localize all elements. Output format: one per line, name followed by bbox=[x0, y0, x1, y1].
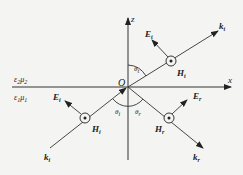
e-r-label: Er bbox=[192, 91, 202, 102]
x-axis-label: x bbox=[227, 75, 232, 85]
e-i-label: Ei bbox=[52, 92, 61, 103]
medium-2-label: ε2μ2 bbox=[14, 75, 27, 85]
e-i-vector bbox=[65, 101, 81, 114]
theta-t-label: θt bbox=[134, 65, 139, 74]
em-wave-reflection-refraction-diagram: z x O ε2μ2 ε1μ1 kt Et Ht θt ki Ei Hi θi … bbox=[0, 0, 243, 175]
k-r-label: kr bbox=[193, 152, 201, 163]
svg-text:ε1μ1: ε1μ1 bbox=[14, 93, 27, 103]
z-axis-label: z bbox=[130, 14, 135, 24]
k-t-label: kt bbox=[219, 21, 226, 32]
origin-label: O bbox=[118, 77, 125, 88]
svg-text:ε2μ2: ε2μ2 bbox=[14, 75, 27, 85]
h-t-label: Ht bbox=[176, 68, 186, 79]
e-t-label: Et bbox=[144, 29, 153, 40]
k-i-label: ki bbox=[44, 152, 51, 163]
e-r-vector bbox=[172, 100, 187, 114]
reflected-wave: kr Er Hr θr bbox=[128, 87, 203, 163]
transmitted-wave: kt Et Ht θt bbox=[128, 21, 226, 87]
h-r-label: Hr bbox=[154, 124, 165, 135]
theta-i-label: θi bbox=[115, 108, 120, 117]
theta-r-label: θr bbox=[135, 108, 141, 117]
e-t-vector bbox=[152, 40, 168, 57]
medium-1-label: ε1μ1 bbox=[14, 93, 27, 103]
h-i-label: Hi bbox=[91, 124, 101, 135]
